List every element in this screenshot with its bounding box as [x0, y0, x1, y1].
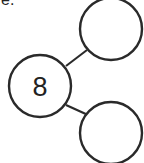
- part-circle-top[interactable]: [80, 0, 142, 60]
- connector-top: [66, 50, 87, 66]
- connector-bottom: [66, 105, 88, 115]
- part-circle-bottom[interactable]: [80, 102, 142, 163]
- whole-value: 8: [32, 72, 47, 102]
- number-bond-diagram: 8: [0, 0, 144, 163]
